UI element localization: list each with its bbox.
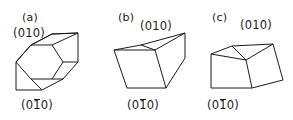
face-label-b-bottom: (010) bbox=[127, 100, 159, 112]
crystal-shape-c bbox=[211, 44, 283, 88]
crystal-shape-a bbox=[16, 33, 78, 90]
face-label-a-top: (010) bbox=[13, 28, 45, 40]
face-label-a-bottom-barred-digit: 1 bbox=[33, 100, 41, 112]
face-label-c-bottom-suffix: 0) bbox=[227, 98, 239, 112]
face-label-a-bottom: (010) bbox=[21, 100, 53, 112]
crystal-shape-b bbox=[114, 33, 185, 88]
face-label-c-bottom-prefix: (0 bbox=[207, 98, 219, 112]
face-label-b-bottom-prefix: (0 bbox=[127, 98, 139, 112]
face-label-c-bottom-barred-digit: 1 bbox=[219, 100, 227, 112]
panel-label-a: (a) bbox=[22, 12, 38, 23]
face-label-c-bottom: (010) bbox=[207, 100, 239, 112]
face-label-b-bottom-barred-digit: 1 bbox=[139, 100, 147, 112]
face-label-a-bottom-prefix: (0 bbox=[21, 98, 33, 112]
crystal-habit-figure: (a) (010) (010) (b) (010) (010) (c) (010… bbox=[0, 0, 293, 120]
face-label-b-bottom-suffix: 0) bbox=[147, 98, 159, 112]
face-label-b-top: (010) bbox=[140, 21, 172, 33]
panel-label-c: (c) bbox=[212, 12, 227, 23]
face-label-a-bottom-suffix: 0) bbox=[41, 98, 53, 112]
panel-label-b: (b) bbox=[118, 12, 134, 23]
face-label-c-top: (010) bbox=[240, 20, 272, 32]
